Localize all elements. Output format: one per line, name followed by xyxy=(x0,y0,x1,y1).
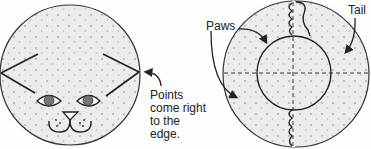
label-tail: Tail xyxy=(348,4,366,17)
label-paws: Paws xyxy=(206,20,235,33)
annotation-points: Points come right to the edge. xyxy=(150,89,206,141)
cat-craft-diagram: Points come right to the edge. Paws Tail xyxy=(0,0,371,149)
points-arrow xyxy=(146,72,161,86)
cat-face xyxy=(0,5,140,145)
annotation-line-4: edge. xyxy=(150,128,206,141)
